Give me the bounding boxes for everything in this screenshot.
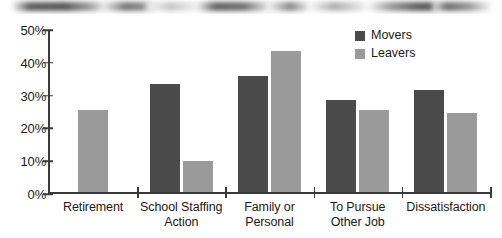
x-axis-category-label: Retirement: [49, 200, 137, 215]
bar-movers: [238, 76, 268, 192]
x-axis-category-label: Dissatisfaction: [402, 200, 490, 215]
y-axis-tick-mark: [43, 29, 53, 31]
x-axis-label-line: School Staffing: [137, 200, 225, 215]
chart-legend: MoversLeavers: [355, 28, 475, 64]
bar-chart: 50%40%30%20%10%0% RetirementSchool Staff…: [0, 14, 502, 238]
y-axis-tick-label: 40%: [4, 56, 46, 69]
bar-movers: [326, 100, 356, 192]
x-axis-tick-mark: [225, 187, 227, 198]
y-axis-tick-label: 20%: [4, 122, 46, 135]
x-axis-label-line: Other Job: [314, 215, 402, 230]
x-axis-category-label: School StaffingAction: [137, 200, 225, 230]
y-axis-labels: 50%40%30%20%10%0%: [0, 14, 46, 238]
bar-group: [137, 28, 225, 192]
x-axis-labels: RetirementSchool StaffingActionFamily or…: [49, 200, 490, 238]
scan-smudge: [196, 2, 272, 11]
x-axis-label-line: Family or: [225, 200, 313, 215]
bar-movers: [414, 90, 444, 192]
legend-label: Movers: [371, 29, 412, 42]
scan-smudge: [434, 2, 492, 11]
scan-smudge: [268, 2, 312, 11]
bar-group: [49, 28, 137, 192]
y-axis-tick-mark: [43, 193, 53, 195]
y-axis-tick-label: 50%: [4, 24, 46, 37]
bar-group: [225, 28, 313, 192]
y-axis-tick-label: 0%: [4, 188, 46, 201]
x-axis-category-label: Family orPersonal: [225, 200, 313, 230]
scan-artifact-strip: [0, 0, 502, 14]
legend-swatch-icon: [355, 31, 365, 41]
x-axis-label-line: To Pursue: [314, 200, 402, 215]
bar-leavers: [447, 113, 477, 192]
x-axis-tick-mark: [490, 187, 492, 198]
x-axis-tick-mark: [402, 187, 404, 198]
scan-smudge: [147, 2, 199, 11]
legend-item-leavers[interactable]: Leavers: [355, 46, 475, 61]
scan-smudge: [12, 2, 108, 11]
legend-swatch-icon: [355, 49, 365, 59]
x-axis-tick-mark: [314, 187, 316, 198]
legend-label: Leavers: [371, 47, 415, 60]
y-axis-tick-mark: [43, 128, 53, 130]
x-axis-tick-mark: [137, 187, 139, 198]
x-axis-label-line: Dissatisfaction: [402, 200, 490, 215]
x-axis-line: [48, 192, 490, 194]
y-axis-tick-mark: [43, 62, 53, 64]
x-axis-category-label: To PursueOther Job: [314, 200, 402, 230]
y-axis-tick-label: 10%: [4, 155, 46, 168]
bar-movers: [150, 84, 180, 192]
x-axis-label-line: Action: [137, 215, 225, 230]
x-axis-label-line: Retirement: [49, 200, 137, 215]
bar-leavers: [271, 51, 301, 192]
x-axis-label-line: Personal: [225, 215, 313, 230]
legend-item-movers[interactable]: Movers: [355, 28, 475, 43]
y-axis-tick-label: 30%: [4, 89, 46, 102]
y-axis-tick-mark: [43, 95, 53, 97]
bar-leavers: [183, 161, 213, 192]
scan-smudge: [309, 2, 371, 11]
bar-leavers: [78, 110, 108, 192]
y-axis-tick-mark: [43, 160, 53, 162]
scan-smudge: [368, 2, 438, 11]
bar-leavers: [359, 110, 389, 192]
